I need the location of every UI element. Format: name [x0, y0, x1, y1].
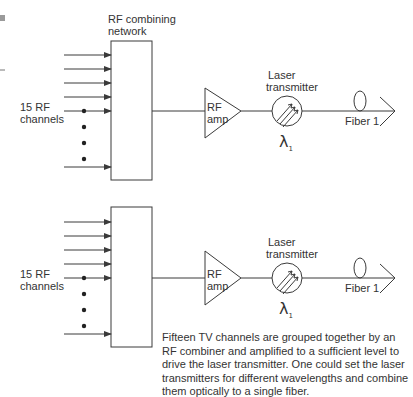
inputs-label-line1: 15 RF [20, 268, 64, 280]
rf-combiner-box [111, 41, 152, 180]
rf-combiner-box [111, 207, 152, 347]
lambda-subscript: 1 [288, 312, 292, 320]
ellipsis-dot [82, 292, 86, 296]
combiner-label-line1: RF combining [108, 13, 176, 25]
amp-label-line2: amp [207, 113, 228, 125]
fiber-coil [354, 91, 366, 111]
laser-label: Laser transmitter [266, 236, 318, 260]
inputs-label: 15 RF channels [20, 101, 64, 125]
fiber-label: Fiber 1 [345, 282, 379, 294]
top-row [64, 41, 395, 180]
amp-label-line2: amp [207, 280, 228, 292]
margin-marker [0, 15, 5, 21]
inputs-label-line2: channels [20, 280, 64, 292]
inputs-label-line1: 15 RF [20, 101, 64, 113]
amp-label: RF amp [207, 101, 228, 125]
laser-label-line1: Laser [266, 69, 318, 81]
ellipsis-dot [82, 141, 86, 145]
lambda-subscript: 1 [288, 145, 292, 153]
combiner-label: RF combining network [108, 13, 176, 37]
ellipsis-dot [82, 109, 86, 113]
wavelength-label: λ1 [279, 132, 293, 153]
combiner-label-line2: network [108, 25, 176, 37]
laser-label: Laser transmitter [266, 69, 318, 93]
amp-label-line1: RF [207, 268, 228, 280]
ellipsis-dot [82, 308, 86, 312]
fiber-label: Fiber 1 [345, 115, 379, 127]
laser-label-line2: transmitter [266, 248, 318, 260]
ellipsis-dot [82, 157, 86, 161]
ellipsis-dot [82, 125, 86, 129]
bottom-row [64, 207, 395, 347]
figure-caption: Fifteen TV channels are grouped together… [162, 331, 410, 397]
ellipsis-dot [82, 276, 86, 280]
inputs-label-line2: channels [20, 113, 64, 125]
laser-label-line1: Laser [266, 236, 318, 248]
amp-label-line1: RF [207, 101, 228, 113]
ellipsis-dot [82, 324, 86, 328]
inputs-label: 15 RF channels [20, 268, 64, 292]
laser-label-line2: transmitter [266, 81, 318, 93]
wavelength-label: λ1 [279, 299, 293, 320]
amp-label: RF amp [207, 268, 228, 292]
fiber-coil [354, 258, 366, 278]
